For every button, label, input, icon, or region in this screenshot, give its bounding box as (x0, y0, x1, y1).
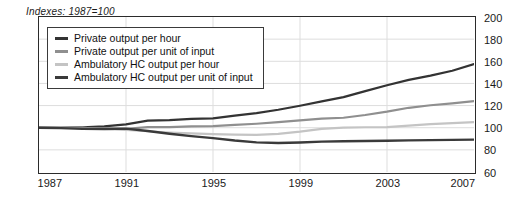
legend-item[interactable]: Ambulatory HC output per unit of input (55, 71, 253, 84)
y-axis-tick-label: 100 (484, 123, 502, 134)
x-axis: 198719911995199920032007 (0, 178, 522, 202)
legend-color-swatch (55, 37, 68, 40)
legend-color-swatch (55, 50, 68, 53)
x-axis-tick-label: 1991 (115, 178, 139, 189)
y-axis-tick-label: 120 (484, 101, 502, 112)
legend-item[interactable]: Private output per unit of input (55, 45, 253, 58)
legend-label: Private output per unit of input (74, 46, 214, 57)
y-axis-tick-label: 80 (484, 145, 496, 156)
x-axis-tick-label: 1987 (38, 178, 62, 189)
legend-label: Private output per hour (74, 33, 181, 44)
y-axis-tick-label: 200 (484, 13, 502, 24)
x-axis-tick-label: 1999 (289, 178, 313, 189)
legend-label: Ambulatory HC output per unit of input (74, 72, 253, 83)
chart-container: Indexes: 1987=100 2001801601401201008060… (0, 0, 522, 202)
y-axis-tick-label: 60 (484, 168, 496, 179)
x-axis-tick-label: 2003 (376, 178, 400, 189)
legend-item[interactable]: Ambulatory HC output per hour (55, 58, 253, 71)
y-axis-tick-label: 140 (484, 79, 502, 90)
legend: Private output per hourPrivate output pe… (47, 27, 264, 89)
x-axis-tick-label: 2007 (451, 178, 475, 189)
legend-color-swatch (55, 63, 68, 66)
y-axis-tick-label: 180 (484, 35, 502, 46)
y-axis-tick-label: 160 (484, 57, 502, 68)
legend-label: Ambulatory HC output per hour (74, 59, 219, 70)
y-axis: 2001801601401201008060 (484, 0, 522, 202)
legend-item[interactable]: Private output per hour (55, 32, 253, 45)
legend-color-swatch (55, 76, 68, 79)
x-axis-tick-label: 1995 (202, 178, 226, 189)
